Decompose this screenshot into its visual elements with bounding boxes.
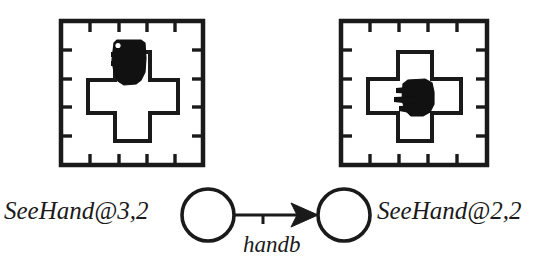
state-node-source[interactable] xyxy=(182,189,234,241)
hand-icon xyxy=(111,40,146,85)
panel-right[interactable] xyxy=(341,21,487,165)
state-label-source: SeeHand@3,2 xyxy=(4,198,149,223)
panel-left[interactable] xyxy=(61,21,203,165)
diagram-canvas: SeeHand@3,2 SeeHand@2,2 handb xyxy=(0,0,551,263)
transition-label: handb xyxy=(243,233,301,256)
state-label-target: SeeHand@2,2 xyxy=(377,198,522,223)
arrow-right-icon[interactable] xyxy=(234,203,318,227)
state-node-target[interactable] xyxy=(318,189,370,241)
